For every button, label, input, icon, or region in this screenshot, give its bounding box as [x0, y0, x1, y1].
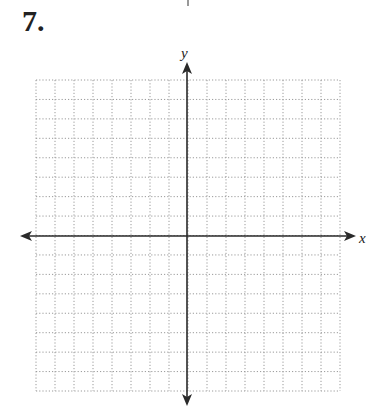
x-axis-label: x [358, 230, 366, 246]
y-axis-label: y [179, 45, 188, 61]
coordinate-grid: x y [0, 0, 376, 412]
